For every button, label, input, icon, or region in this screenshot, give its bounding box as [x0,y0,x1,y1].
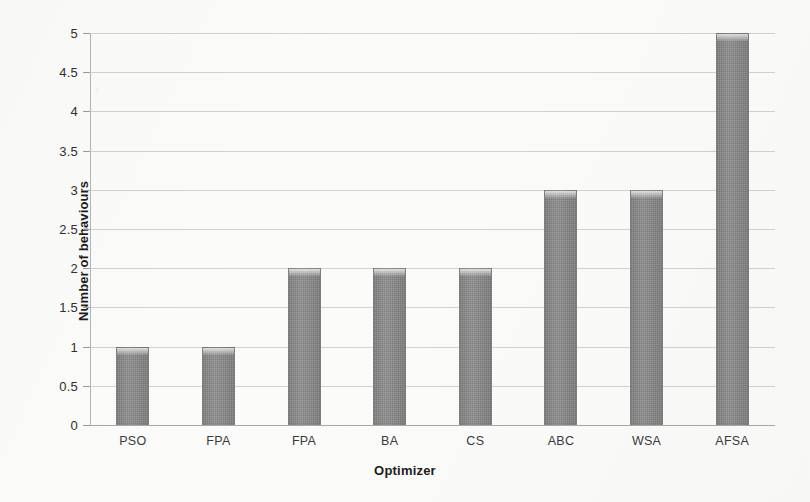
y-axis-tick-label: 2 [32,261,78,276]
gridline [90,347,775,348]
gridline [90,72,775,73]
y-axis-tick-mark [83,111,90,112]
y-axis-tick-label: 3 [32,182,78,197]
bar-top-highlight [460,269,491,276]
y-axis-tick-mark [83,72,90,73]
bar [630,190,663,425]
bar-chart: Number of behaviours 00.511.522.533.544.… [0,0,810,502]
gridline [90,386,775,387]
x-axis-tick-label: CS [466,434,484,448]
y-axis-tick-label: 0 [32,418,78,433]
x-axis-tick-label: AFSA [715,434,749,448]
gridline [90,307,775,308]
y-axis-tick-mark [83,307,90,308]
bar [373,268,406,425]
y-axis-tick-label: 3.5 [32,143,78,158]
bar [288,268,321,425]
bar [116,347,149,425]
y-axis-tick-label: 1.5 [32,300,78,315]
bar [544,190,577,425]
bar-top-highlight [289,269,320,276]
x-axis-tick-label: WSA [632,434,661,448]
bar-top-highlight [117,348,148,355]
y-axis-tick-label: 4 [32,104,78,119]
y-axis-tick-label: 1 [32,339,78,354]
gridline [90,229,775,230]
x-axis-tick-label: PSO [119,434,146,448]
y-axis-tick-mark [83,425,90,426]
y-axis-tick-mark [83,151,90,152]
bar-top-highlight [374,269,405,276]
x-axis-tick-label: FPA [206,434,230,448]
y-axis-tick-mark [83,347,90,348]
bar [459,268,492,425]
axis-baseline [90,425,775,426]
bar-top-highlight [545,191,576,198]
x-axis-tick-label: ABC [548,434,575,448]
gridline [90,151,775,152]
y-axis-tick-label: 0.5 [32,378,78,393]
y-axis-tick-mark [83,268,90,269]
bar-top-highlight [631,191,662,198]
bar-top-highlight [203,348,234,355]
gridline [90,111,775,112]
y-axis-tick-label: 5 [32,26,78,41]
y-axis-tick-labels: 00.511.522.533.544.55 [0,0,78,502]
x-axis-tick-label: FPA [292,434,316,448]
x-axis-tick-label: BA [381,434,398,448]
y-axis-tick-label: 4.5 [32,65,78,80]
bar [716,33,749,425]
y-axis-tick-label: 2.5 [32,222,78,237]
bar [202,347,235,425]
y-axis-tick-mark [83,386,90,387]
gridline [90,268,775,269]
plot-area [90,33,775,425]
gridline [90,190,775,191]
y-axis-tick-mark [83,190,90,191]
x-axis-title: Optimizer [0,463,810,478]
y-axis-tick-mark [83,33,90,34]
bar-top-highlight [717,34,748,41]
gridline [90,33,775,34]
y-axis-tick-mark [83,229,90,230]
